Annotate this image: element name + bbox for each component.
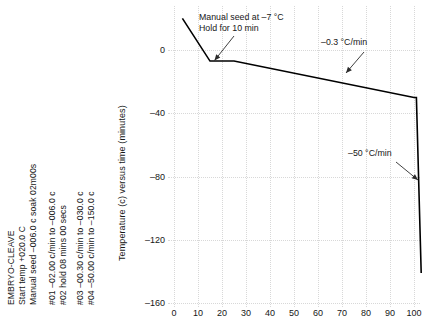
annotation-rate-fast-label: –50 °C/min	[348, 148, 392, 159]
program-line-step-02: #02 hold 08 mins 00 secs	[59, 205, 68, 305]
y-tick-label: –80	[150, 172, 165, 182]
program-line-step-03: #03 –00.30 c/min to –030.0 c	[76, 191, 85, 305]
cooling-program-text: EMBRYO-CLEAVE Start temp +020.0 C Manual…	[0, 0, 122, 331]
y-tick-label: –160	[145, 298, 165, 308]
program-line-title: EMBRYO-CLEAVE	[7, 230, 16, 305]
y-tick-label: –40	[150, 108, 165, 118]
cooling-curve	[174, 0, 431, 331]
y-axis-title: Temperature (c) versus time (minutes)	[125, 0, 141, 305]
annotation-manual-seed: Manual seed at –7 °C Hold for 10 min	[199, 12, 284, 34]
arrow-manual-seed-head	[215, 54, 221, 60]
annotation-manual-seed-line2: Hold for 10 min	[199, 23, 284, 34]
chart-plot: 0–40–80–120–160 0102030405060708090100 M…	[143, 0, 431, 331]
annotation-rate-slow: –0.3 °C/min	[321, 37, 367, 48]
program-line-step-04: #04 –50.00 c/min to –150.0 c	[87, 191, 96, 305]
annotation-rate-slow-label: –0.3 °C/min	[321, 37, 367, 48]
y-tick-label: 0	[160, 45, 165, 55]
plot-area: 0–40–80–120–160 0102030405060708090100	[174, 50, 414, 303]
program-line-manualseed: Manual seed –006.0 c soak 02m00s	[29, 164, 38, 305]
program-line-starttemp: Start temp +020.0 C	[18, 226, 27, 305]
y-tick-label: –120	[145, 235, 165, 245]
annotation-rate-fast: –50 °C/min	[348, 148, 392, 159]
program-line-step-01: #01 –02.00 c/min to –006.0 c	[48, 191, 57, 305]
y-axis-title-label: Temperature (c) versus time (minutes)	[117, 105, 127, 261]
annotation-manual-seed-line1: Manual seed at –7 °C	[199, 12, 284, 23]
